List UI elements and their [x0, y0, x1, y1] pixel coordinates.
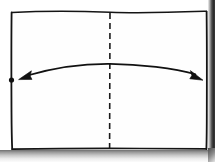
left-marker-dot-group — [9, 77, 14, 82]
rectangle-bottom-border — [12, 148, 206, 149]
figure-canvas: Hand-drawn rectangle with centerline and… — [0, 0, 215, 162]
diagram-svg — [0, 0, 215, 162]
left-marker-dot — [9, 77, 14, 82]
